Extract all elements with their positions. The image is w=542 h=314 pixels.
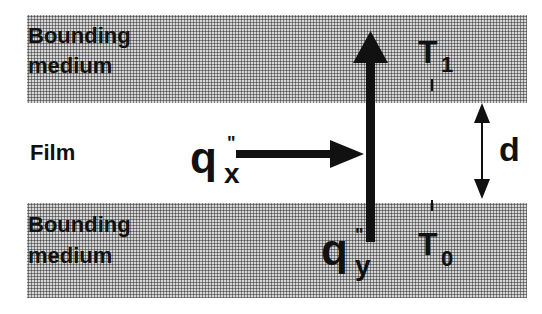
qy-arrow — [353, 31, 388, 242]
arrows-layer — [0, 0, 542, 314]
qx-arrow — [236, 140, 364, 168]
thickness-double-arrow — [474, 103, 490, 199]
